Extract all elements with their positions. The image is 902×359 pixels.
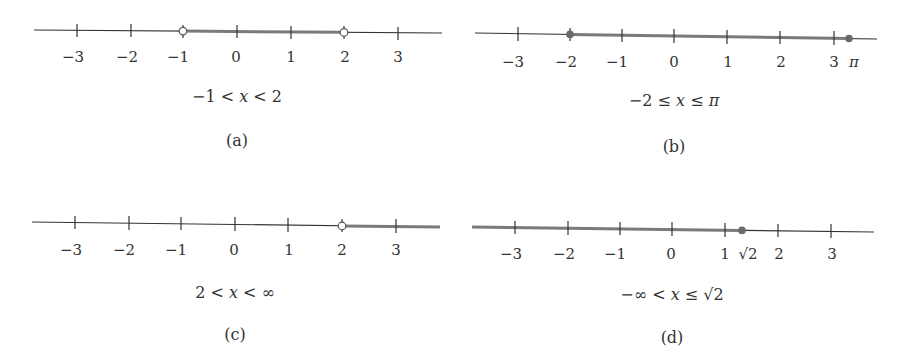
sqrt2-label: √2 [738, 245, 757, 263]
interval-expression: −1 < x < 2 [192, 87, 282, 106]
pi-label: π [848, 53, 860, 71]
number-lines-figure: −3 −2 −1 0 1 2 3 −1 < x < 2 (a) −3 −2 − [0, 0, 902, 359]
svg-text:−2: −2 [116, 48, 138, 66]
svg-text:1: 1 [723, 53, 733, 71]
open-endpoint [338, 222, 346, 230]
svg-text:−3: −3 [60, 241, 82, 259]
svg-text:3: 3 [391, 241, 401, 259]
closed-endpoint [738, 227, 746, 235]
interval-expression: 2 < x < ∞ [195, 283, 275, 302]
svg-text:0: 0 [669, 53, 679, 71]
panel-caption: (c) [224, 325, 245, 344]
panel-c: −3 −2 −1 0 1 2 3 2 < x < ∞ (c) [32, 216, 440, 344]
panel-caption: (d) [661, 328, 684, 347]
svg-text:2: 2 [774, 245, 784, 263]
svg-text:0: 0 [666, 245, 676, 263]
svg-text:−2: −2 [553, 245, 575, 263]
tick-labels: −3 −2 −1 0 1 2 3 [62, 48, 403, 66]
interval-expression: −2 ≤ x ≤ π [629, 91, 720, 110]
interval-expression: −∞ < x ≤ √2 [620, 285, 723, 304]
tick-labels: −3 −2 −1 0 1 2 3 π [502, 53, 860, 71]
svg-text:0: 0 [229, 241, 239, 259]
svg-text:1: 1 [284, 241, 294, 259]
svg-text:1: 1 [286, 48, 296, 66]
open-endpoint-left [179, 27, 187, 35]
svg-text:−2: −2 [555, 53, 577, 71]
svg-text:−3: −3 [502, 53, 524, 71]
tick-labels: −3 −2 −1 0 1 2 3 [60, 241, 401, 259]
svg-text:−1: −1 [167, 48, 189, 66]
svg-text:−1: −1 [606, 53, 628, 71]
panel-caption: (b) [663, 137, 686, 156]
svg-text:−3: −3 [62, 48, 84, 66]
svg-text:1: 1 [720, 245, 730, 263]
svg-text:0: 0 [231, 48, 241, 66]
panel-a: −3 −2 −1 0 1 2 3 −1 < x < 2 (a) [34, 24, 442, 150]
interval-segment [570, 34, 849, 38]
svg-text:2: 2 [340, 48, 350, 66]
svg-text:3: 3 [827, 245, 837, 263]
svg-text:−3: −3 [500, 245, 522, 263]
svg-text:2: 2 [776, 53, 786, 71]
open-endpoint-right [340, 29, 348, 37]
svg-text:−2: −2 [113, 241, 135, 259]
svg-text:3: 3 [393, 48, 403, 66]
svg-text:−1: −1 [165, 241, 187, 259]
interval-segment [183, 31, 344, 32]
interval-ray [342, 226, 440, 227]
closed-endpoint-right [845, 35, 853, 43]
panel-caption: (a) [226, 131, 248, 150]
closed-endpoint-left [566, 31, 574, 39]
tick-labels: −3 −2 −1 0 1 2 3 √2 [500, 245, 837, 263]
interval-ray [472, 227, 742, 230]
panel-d: −3 −2 −1 0 1 2 3 √2 −∞ < x ≤ √2 (d) [472, 221, 874, 347]
panel-b: −3 −2 −1 0 1 2 3 π −2 ≤ x ≤ π (b) [475, 27, 877, 156]
ticks [75, 216, 396, 233]
svg-text:−1: −1 [604, 245, 626, 263]
svg-text:2: 2 [337, 241, 347, 259]
svg-text:3: 3 [829, 53, 839, 71]
